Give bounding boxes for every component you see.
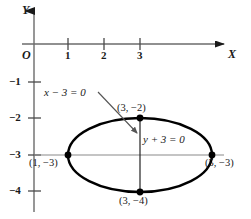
- x-tick-label-3: 3: [137, 50, 143, 61]
- y-tick-label-minus-1: −1: [9, 76, 21, 87]
- y-tick-label-minus-3: −3: [9, 149, 21, 160]
- point-label-left-vertex: (1, −3): [29, 158, 58, 169]
- y-tick-label-minus-4: −4: [9, 185, 21, 196]
- point-top-vertex: [137, 115, 144, 122]
- origin-label: O: [22, 49, 31, 61]
- y-equation-label: y + 3 = 0: [143, 134, 185, 145]
- y-axis-label: Y: [22, 4, 29, 16]
- x-equation-label: x − 3 = 0: [44, 87, 86, 98]
- x-axis-label: X: [228, 48, 236, 60]
- point-left-vertex: [65, 152, 72, 159]
- x-tick-label-2: 2: [101, 50, 107, 61]
- point-label-top-vertex: (3, −2): [117, 103, 146, 114]
- y-tick-label-minus-2: −2: [9, 112, 21, 123]
- point-label-bottom-vertex: (3, −4): [119, 196, 148, 207]
- point-label-right-vertex: (5, −3): [205, 158, 234, 169]
- x-tick-label-1: 1: [65, 50, 71, 61]
- ellipse-coordinate-figure: Y X O 1 2 3 −1 −2 −3 −4 x − 3 = 0 y + 3 …: [0, 0, 251, 219]
